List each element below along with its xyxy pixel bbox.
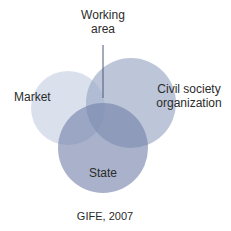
civil-label-line1: Civil society <box>150 82 228 96</box>
civil-society-label: Civil society organization <box>150 82 228 110</box>
caption: GIFE, 2007 <box>70 209 140 223</box>
civil-label-line2: organization <box>150 96 228 110</box>
working-label-line1: Working <box>73 8 133 22</box>
market-label: Market <box>14 90 51 104</box>
working-label-line2: area <box>73 22 133 36</box>
state-label: State <box>86 166 120 180</box>
working-area-label: Working area <box>73 8 133 36</box>
